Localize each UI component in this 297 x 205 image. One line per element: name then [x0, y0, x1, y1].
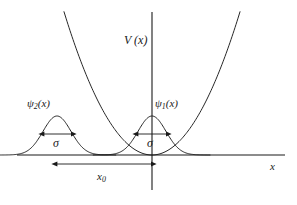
- wavefunction-psi2-label: ψ2(x): [27, 98, 50, 111]
- sigma-left-symbol: σ: [53, 136, 59, 150]
- psi1-symbol: ψ: [155, 97, 162, 109]
- psi2-symbol: ψ: [27, 97, 34, 109]
- axes-group: [17, 12, 285, 190]
- x0-subscript: 0: [102, 175, 106, 184]
- potential-label-text: V (x): [124, 33, 147, 47]
- wavefunction-psi1-label: ψ1(x): [155, 98, 178, 111]
- sigma-left-label: σ: [53, 137, 59, 149]
- sigma-right-label: σ: [147, 137, 153, 149]
- psi1-argument: (x): [166, 97, 178, 109]
- x-axis-label: x: [270, 161, 275, 172]
- potential-label: V (x): [124, 34, 147, 46]
- psi2-argument: (x): [38, 97, 50, 109]
- sigma-right-symbol: σ: [147, 136, 153, 150]
- x0-separation-label: x0: [97, 171, 106, 184]
- x-axis-symbol: x: [270, 160, 275, 172]
- figure-canvas: V (x) ψ2(x) ψ1(x) σ σ x0 x: [0, 0, 297, 205]
